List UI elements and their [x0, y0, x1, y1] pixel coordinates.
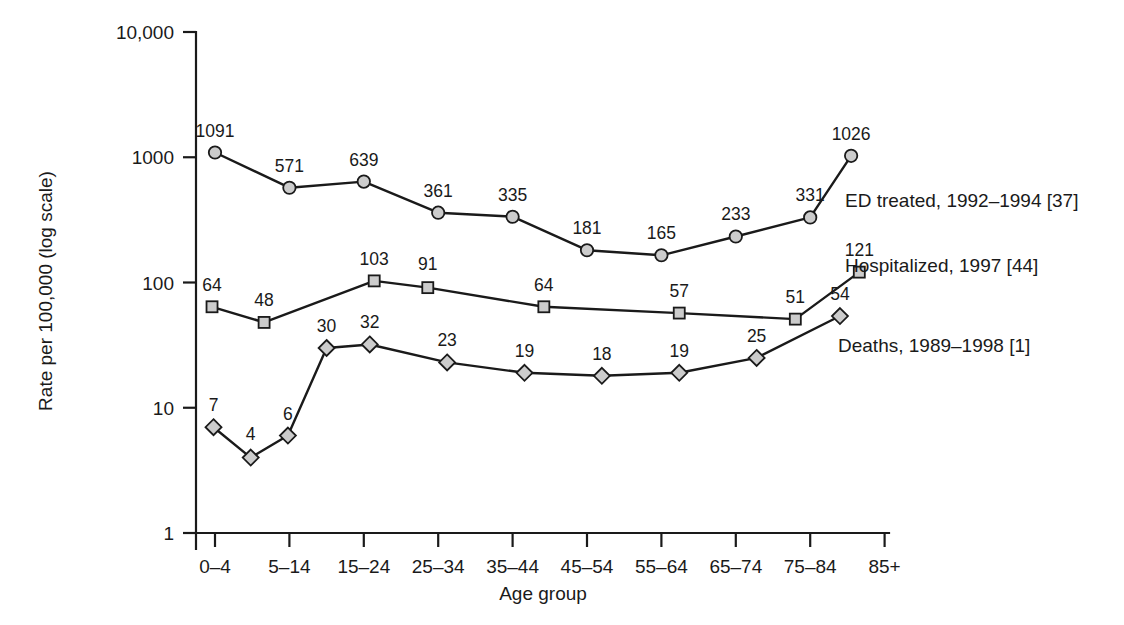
legend-label-1: Hospitalized, 1997 [44] [845, 255, 1038, 276]
legend-label-2: Deaths, 1989–1998 [1] [838, 335, 1030, 356]
x-tick-label: 5–14 [268, 556, 311, 577]
injury-rate-line-chart: 10,0001000100101 Rate per 100,000 (log s… [0, 0, 1124, 625]
x-tick-label: 15–24 [337, 556, 390, 577]
y-tick-label: 10,000 [116, 22, 174, 43]
data-point-circle[interactable] [804, 211, 816, 223]
data-point-square[interactable] [207, 301, 218, 312]
x-tick-label: 25–34 [412, 556, 465, 577]
x-tick-label: 85+ [868, 556, 900, 577]
data-point-circle[interactable] [655, 249, 667, 261]
data-point-diamond[interactable] [439, 354, 455, 370]
x-tick-label: 65–74 [709, 556, 762, 577]
data-point-label: 19 [670, 341, 689, 361]
series-circle: 10915716393613351811652333311026 [196, 121, 871, 262]
data-point-label: 181 [572, 218, 601, 238]
data-point-label: 64 [534, 275, 554, 295]
data-point-circle[interactable] [845, 150, 857, 162]
y-tick-label: 1000 [132, 147, 174, 168]
data-point-label: 4 [246, 424, 256, 444]
data-point-square[interactable] [790, 314, 801, 325]
data-point-circle[interactable] [209, 146, 221, 158]
data-point-circle[interactable] [432, 206, 444, 218]
data-point-circle[interactable] [730, 230, 742, 242]
series-square: 644810391645751121 [202, 240, 874, 328]
data-point-diamond[interactable] [280, 428, 296, 444]
data-point-diamond[interactable] [362, 336, 378, 352]
data-point-square[interactable] [422, 282, 433, 293]
data-point-diamond[interactable] [517, 365, 533, 381]
data-point-circle[interactable] [506, 211, 518, 223]
x-axis: 0–45–1415–2425–3435–4445–5455–6465–7475–… [196, 533, 901, 604]
series-diamond: 7463032231918192554 [206, 284, 850, 466]
legend-label-0: ED treated, 1992–1994 [37] [845, 190, 1078, 211]
y-tick-label: 10 [153, 398, 174, 419]
data-point-label: 7 [209, 395, 219, 415]
data-point-label: 19 [515, 341, 534, 361]
chart-legend: ED treated, 1992–1994 [37]Hospitalized, … [838, 190, 1078, 356]
x-tick-label: 0–4 [199, 556, 231, 577]
y-axis: 10,0001000100101 Rate per 100,000 (log s… [35, 22, 196, 549]
data-point-label: 165 [647, 223, 676, 243]
data-point-square[interactable] [259, 317, 270, 328]
data-point-label: 6 [283, 404, 293, 424]
data-point-diamond[interactable] [594, 368, 610, 384]
y-tick-group: 10,0001000100101 [116, 22, 196, 544]
data-point-label: 54 [830, 284, 850, 304]
data-point-diamond[interactable] [671, 365, 687, 381]
data-point-label: 25 [747, 326, 766, 346]
x-tick-group: 0–45–1415–2425–3435–4445–5455–6465–7475–… [199, 533, 901, 577]
data-point-label: 57 [670, 281, 689, 301]
x-axis-title: Age group [499, 583, 587, 604]
data-point-label: 32 [360, 312, 379, 332]
data-point-circle[interactable] [358, 175, 370, 187]
series-group: 1091571639361335181165233331102664481039… [196, 121, 874, 466]
data-point-label: 48 [254, 290, 273, 310]
data-point-label: 331 [796, 185, 825, 205]
series-line [215, 153, 851, 256]
data-point-label: 30 [317, 316, 337, 336]
data-point-label: 51 [786, 287, 805, 307]
data-point-diamond[interactable] [832, 308, 848, 324]
data-point-label: 361 [424, 181, 453, 201]
data-point-label: 91 [418, 254, 437, 274]
x-tick-label: 75–84 [784, 556, 837, 577]
data-point-diamond[interactable] [749, 350, 765, 366]
data-point-label: 18 [592, 344, 611, 364]
data-point-label: 1026 [832, 124, 871, 144]
data-point-square[interactable] [369, 275, 380, 286]
data-point-square[interactable] [538, 301, 549, 312]
data-point-circle[interactable] [581, 244, 593, 256]
data-point-label: 233 [721, 204, 750, 224]
chart-figure: 10,0001000100101 Rate per 100,000 (log s… [0, 0, 1124, 625]
data-point-label: 639 [349, 150, 378, 170]
data-point-circle[interactable] [283, 182, 295, 194]
data-point-square[interactable] [674, 308, 685, 319]
y-axis-title: Rate per 100,000 (log scale) [35, 171, 56, 411]
data-point-label: 571 [275, 156, 304, 176]
x-tick-label: 55–64 [635, 556, 688, 577]
x-tick-label: 45–54 [561, 556, 614, 577]
x-tick-label: 35–44 [486, 556, 539, 577]
data-point-label: 1091 [196, 121, 235, 141]
data-point-label: 64 [202, 275, 222, 295]
data-point-diamond[interactable] [319, 340, 335, 356]
data-point-label: 335 [498, 185, 527, 205]
data-point-label: 103 [360, 249, 389, 269]
y-tick-label: 100 [142, 273, 174, 294]
y-tick-label: 1 [163, 523, 174, 544]
data-point-label: 23 [437, 330, 456, 350]
